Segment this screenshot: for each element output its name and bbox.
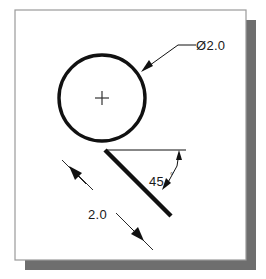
technical-drawing: Ø2.0 45 ° 2.0 (0, 0, 266, 279)
degree-symbol-icon: ° (170, 171, 173, 180)
length-label: 2.0 (88, 207, 107, 222)
drawing-canvas: Ø2.0 45 ° 2.0 (0, 0, 266, 279)
angle-label: 45 (149, 174, 164, 189)
diameter-label: Ø2.0 (196, 38, 225, 53)
